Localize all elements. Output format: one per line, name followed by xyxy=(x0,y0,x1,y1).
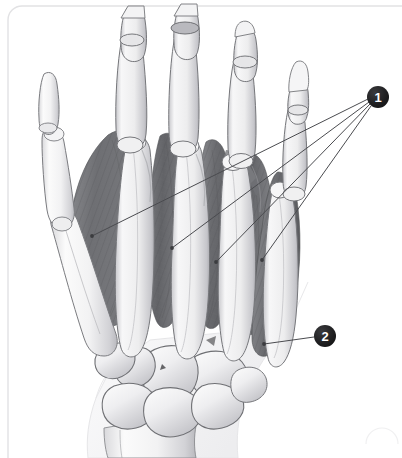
hand-skeleton xyxy=(39,4,309,458)
middle-phalanges xyxy=(120,5,309,124)
leader-endpoint-dot xyxy=(262,342,266,346)
third-metacarpal xyxy=(171,137,209,359)
leader-endpoint-dot xyxy=(170,246,174,250)
leader-endpoint-dot xyxy=(214,260,218,264)
leader-endpoint-dot xyxy=(260,258,264,262)
callout-marker-2[interactable]: 2 xyxy=(314,325,336,347)
leader-endpoint-dot xyxy=(90,234,94,238)
callout-marker-1-circle[interactable] xyxy=(367,86,389,108)
callout-marker-2-circle[interactable] xyxy=(314,325,336,347)
anatomy-illustration: 1 2 xyxy=(0,0,402,458)
fourth-metacarpal xyxy=(218,154,255,361)
anatomy-figure: 1 2 xyxy=(0,0,402,458)
callout-marker-1[interactable]: 1 xyxy=(367,86,389,108)
